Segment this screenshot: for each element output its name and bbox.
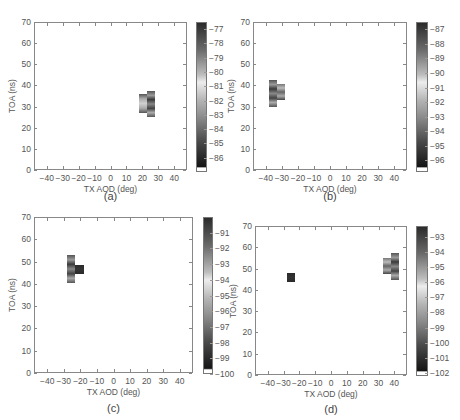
y-tick-label: 70	[230, 221, 252, 231]
colorbar-tick-mark	[425, 282, 428, 283]
y-tick-mark-right	[183, 64, 186, 65]
colorbar-tick-mark	[425, 373, 428, 374]
y-tick-mark-right	[183, 170, 186, 171]
y-tick-mark	[255, 354, 258, 355]
x-tick-mark-top	[142, 23, 143, 26]
colorbar-tick-label: −89	[430, 53, 444, 63]
x-tick-mark-top	[174, 23, 175, 26]
x-tick-label: 40	[168, 376, 192, 386]
colorbar-tick-label: −93	[430, 232, 444, 242]
y-tick-mark	[34, 85, 37, 86]
x-tick-mark-top	[79, 23, 80, 26]
x-tick-mark-top	[315, 227, 316, 230]
colorbar-tick-label: −98	[430, 307, 444, 317]
x-tick-mark-top	[314, 23, 315, 26]
colorbar-tick-label: −102	[430, 368, 449, 378]
colorbar-tick-label: −94	[430, 126, 444, 136]
x-tick-mark	[363, 371, 364, 374]
colorbar-tick-label: −95	[430, 262, 444, 272]
y-tick-mark	[255, 375, 258, 376]
heatmap-cell	[269, 80, 277, 106]
heatmap-cell	[67, 255, 75, 283]
x-tick-mark-top	[284, 227, 285, 230]
y-tick-mark-right	[403, 290, 406, 291]
y-tick-label: 70	[228, 17, 250, 27]
colorbar-tick-label: −94	[430, 247, 444, 257]
y-tick-mark	[253, 85, 256, 86]
heatmap-cell	[75, 265, 83, 274]
heatmap-cell	[383, 258, 391, 274]
colorbar-tick-mark	[204, 43, 207, 44]
colorbar-tick-mark	[210, 280, 213, 281]
y-tick-mark	[34, 22, 37, 23]
y-tick-mark-right	[189, 284, 192, 285]
colorbar-tick-label: −88	[430, 39, 444, 49]
x-tick-mark-top	[63, 23, 64, 26]
colorbar-tick-label: −99	[430, 323, 444, 333]
heatmap-cell	[277, 84, 285, 100]
colorbar-tick-mark	[204, 158, 207, 159]
x-tick-mark-top	[330, 23, 331, 26]
y-tick-mark	[253, 170, 256, 171]
colorbar-tick-label: −92	[430, 97, 444, 107]
y-tick-mark	[34, 128, 37, 129]
x-tick-mark	[268, 371, 269, 374]
y-tick-mark-right	[403, 149, 406, 150]
colorbar-tick-mark	[210, 374, 213, 375]
panel-caption: (b)	[253, 190, 407, 202]
y-axis-label: TOA (ns)	[7, 265, 17, 325]
x-tick-mark	[347, 371, 348, 374]
y-tick-mark	[255, 269, 258, 270]
colorbar-tick-label: −100	[430, 338, 449, 348]
colorbar-tick-mark	[425, 29, 428, 30]
colorbar-tick-label: −83	[209, 110, 223, 120]
y-tick-mark	[34, 262, 37, 263]
x-tick-mark-top	[111, 23, 112, 26]
y-tick-label: 60	[230, 242, 252, 252]
y-tick-mark-right	[189, 373, 192, 374]
plot-frame	[255, 226, 407, 375]
colorbar-tick-label: −84	[209, 124, 223, 134]
y-axis-label: TOA (ns)	[226, 66, 236, 126]
y-tick-mark-right	[183, 43, 186, 44]
x-tick-mark-top	[378, 23, 379, 26]
x-tick-mark	[394, 371, 395, 374]
colorbar-tick-mark	[425, 312, 428, 313]
y-tick-label: 0	[9, 368, 31, 378]
y-tick-mark	[255, 226, 258, 227]
y-tick-mark	[34, 43, 37, 44]
x-tick-mark	[379, 371, 380, 374]
colorbar-tick-mark	[204, 129, 207, 130]
heatmap-cell	[147, 91, 155, 117]
colorbar-tick-mark	[425, 117, 428, 118]
colorbar-tick-mark	[425, 252, 428, 253]
y-tick-mark	[34, 306, 37, 307]
y-tick-mark-right	[403, 64, 406, 65]
x-tick-mark-top	[95, 23, 96, 26]
y-tick-mark-right	[403, 311, 406, 312]
colorbar-tick-mark	[425, 44, 428, 45]
x-tick-mark	[362, 166, 363, 169]
colorbar-tick-mark	[210, 343, 213, 344]
colorbar-tick-mark	[425, 131, 428, 132]
x-tick-mark	[79, 166, 80, 169]
y-tick-mark-right	[189, 328, 192, 329]
plot-frame	[34, 22, 187, 170]
panel-caption: (d)	[255, 403, 407, 415]
x-tick-mark	[130, 369, 131, 372]
colorbar-tick-mark	[425, 358, 428, 359]
y-axis-label: TOA (ns)	[7, 66, 17, 126]
x-tick-mark	[63, 166, 64, 169]
y-tick-mark	[34, 328, 37, 329]
colorbar-tick-mark	[425, 160, 428, 161]
y-tick-mark-right	[189, 262, 192, 263]
x-tick-mark	[378, 166, 379, 169]
x-tick-mark	[330, 166, 331, 169]
y-tick-mark	[34, 284, 37, 285]
x-tick-mark-top	[126, 23, 127, 26]
colorbar-tick-mark	[210, 233, 213, 234]
colorbar-tick-label: −91	[215, 228, 229, 238]
x-tick-mark-top	[331, 227, 332, 230]
y-tick-mark-right	[403, 354, 406, 355]
colorbar-tick-mark	[204, 29, 207, 30]
